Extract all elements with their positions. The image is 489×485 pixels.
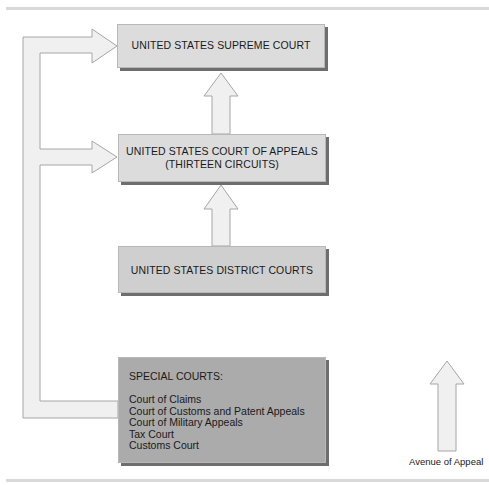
special-court-item: Court of Military Appeals xyxy=(129,417,305,429)
special-courts-list: Court of Claims Court of Customs and Pat… xyxy=(129,394,305,452)
district-courts-box: UNITED STATES DISTRICT COURTS xyxy=(118,246,326,293)
district-to-appeals-arrow xyxy=(204,185,238,246)
special-courts-heading: SPECIAL COURTS: xyxy=(129,370,223,382)
court-of-appeals-box: UNITED STATES COURT OF APPEALS (THIRTEEN… xyxy=(118,134,326,182)
district-courts-label: UNITED STATES DISTRICT COURTS xyxy=(119,264,325,277)
special-court-item: Customs Court xyxy=(129,440,305,452)
up-arrow-icon xyxy=(430,361,464,451)
special-to-higher-courts-arrow xyxy=(23,29,118,418)
legend-label: Avenue of Appeal xyxy=(409,456,483,467)
court-of-appeals-sublabel: (THIRTEEN CIRCUITS) xyxy=(119,158,325,171)
court-of-appeals-label: UNITED STATES COURT OF APPEALS xyxy=(119,145,325,158)
supreme-court-box: UNITED STATES SUPREME COURT xyxy=(117,24,325,68)
special-court-item: Court of Claims xyxy=(129,394,305,406)
supreme-court-label: UNITED STATES SUPREME COURT xyxy=(118,39,324,52)
special-courts-box: SPECIAL COURTS: Court of Claims Court of… xyxy=(118,357,326,463)
appeals-to-supreme-arrow xyxy=(204,73,238,134)
